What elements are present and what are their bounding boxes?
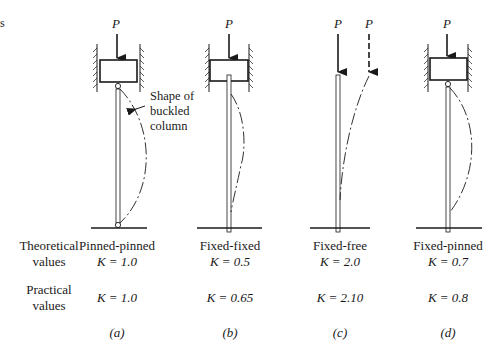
- load-label-a: P: [112, 16, 120, 32]
- column-b-practical: K = 0.65: [180, 290, 280, 306]
- column-b-theoretical: Fixed-fixed K = 0.5: [180, 238, 280, 270]
- load-label-d: P: [443, 16, 451, 32]
- column-a-tag: (a): [67, 325, 167, 341]
- column-d-tag: (d): [398, 325, 498, 341]
- load-label-b: P: [225, 16, 233, 32]
- column-d-theoretical: Fixed-pinned K = 0.7: [398, 238, 498, 270]
- column-d-practical: K = 0.8: [398, 290, 498, 306]
- column-d: [416, 34, 482, 232]
- column-c: [310, 34, 370, 232]
- buckled-shape-callout: Shape of buckled column: [150, 89, 194, 134]
- column-b-tag: (b): [180, 325, 280, 341]
- column-c-practical: K = 2.10: [290, 290, 390, 306]
- column-a-theoretical: Pinned-pinned K = 1.0: [67, 238, 167, 270]
- cropped-text-fragment: s: [0, 16, 5, 31]
- load-label-c-deflected: P: [365, 16, 373, 32]
- column-a: [91, 34, 147, 228]
- column-b: [197, 34, 262, 232]
- column-c-tag: (c): [290, 325, 390, 341]
- load-label-c: P: [334, 16, 342, 32]
- column-a-practical: K = 1.0: [67, 290, 167, 306]
- column-c-theoretical: Fixed-free K = 2.0: [290, 238, 390, 270]
